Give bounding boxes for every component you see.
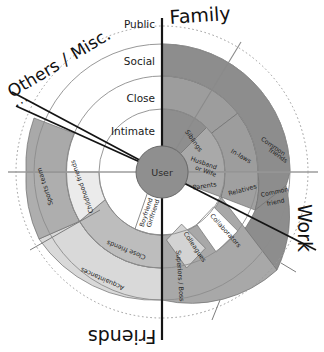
sector-label-family: Family [169, 2, 232, 28]
sector-label-work: Work [294, 204, 316, 252]
sector-label-friends: Friends [88, 326, 156, 348]
segment-sports-team-shape [26, 118, 75, 172]
tick-work-outer [212, 300, 220, 320]
sector-label-others: Others / Misc. [4, 24, 114, 101]
tick-work-side [281, 263, 296, 272]
ring-label-intimate: Intimate [111, 125, 155, 137]
ring-label-social: Social [124, 55, 155, 67]
social-circles-diagram: User Intimate Close Social Public Family… [0, 0, 324, 352]
center-user-label: User [151, 167, 173, 178]
ring-label-close: Close [126, 92, 155, 104]
circles-svg: User Intimate Close Social Public Family… [0, 0, 324, 352]
ring-label-public: Public [124, 18, 155, 30]
